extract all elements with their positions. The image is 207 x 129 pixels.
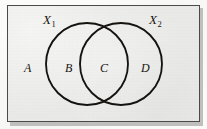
venn-diagram-figure: X1 X2 A B C D (0, 0, 207, 129)
set-label-x1: X1 (43, 13, 55, 26)
region-label-c: C (100, 62, 108, 74)
region-label-b: B (65, 62, 72, 74)
region-label-d: D (141, 62, 150, 74)
subscript-2: 2 (157, 19, 161, 29)
left-circle-x1 (46, 23, 128, 105)
region-label-a: A (24, 62, 31, 74)
subscript-1: 1 (51, 19, 55, 29)
set-label-x2: X2 (149, 13, 161, 26)
